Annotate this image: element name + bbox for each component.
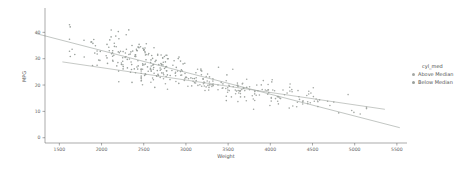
trendline-below-median [35,33,399,127]
y-axis-title: MPG [21,71,27,82]
legend: cyl_med Above Median Below Median [408,63,468,86]
legend-item-label: Above Median [418,71,453,78]
legend-item[interactable]: Above Median [408,71,468,78]
scatter-plot: 1500200025003000350040004500500055000102… [0,0,469,169]
x-tick-label: 4500 [307,147,319,152]
x-axis-title: Weight [217,153,234,160]
x-tick-label: 1500 [53,147,65,152]
y-tick-label: 20 [35,83,41,88]
x-tick-label: 5000 [349,147,361,152]
legend-title: cyl_med [408,63,468,70]
y-tick-label: 30 [35,56,41,61]
legend-marker-icon [412,73,415,76]
x-tick-label: 2000 [96,147,108,152]
x-tick-label: 4000 [264,147,276,152]
trendline-above-median [62,62,385,109]
y-tick-label: 10 [35,109,41,114]
chart-area: 1500200025003000350040004500500055000102… [0,0,469,169]
legend-item-label: Below Median [418,79,453,86]
legend-marker-icon [412,81,415,84]
y-tick-label: 40 [35,30,41,35]
legend-item[interactable]: Below Median [408,79,468,86]
x-tick-label: 2500 [138,147,150,152]
x-tick-label: 5500 [391,147,403,152]
x-tick-label: 3000 [180,147,192,152]
x-tick-label: 3500 [222,147,234,152]
series-points-above-median [140,68,367,114]
y-tick-label: 0 [38,135,41,140]
